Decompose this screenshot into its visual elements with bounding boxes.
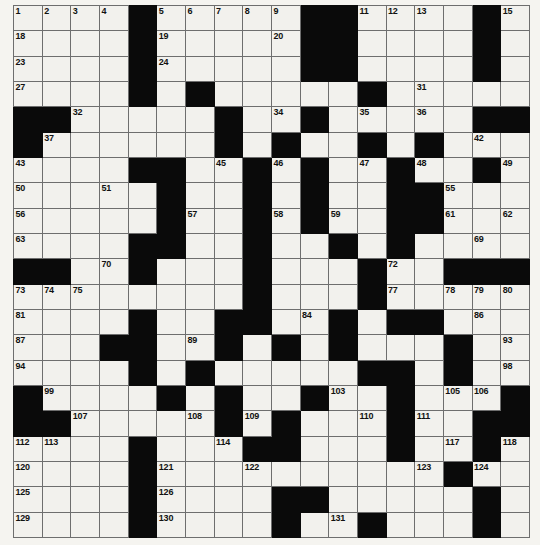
crossword-cell[interactable] [99,512,128,537]
crossword-cell[interactable]: 93 [501,335,530,360]
crossword-cell[interactable] [300,411,329,436]
crossword-cell[interactable] [99,360,128,385]
crossword-cell[interactable] [443,233,472,258]
crossword-cell[interactable] [329,411,358,436]
crossword-cell[interactable] [329,436,358,461]
crossword-cell[interactable]: 110 [357,411,386,436]
crossword-cell[interactable] [271,259,300,284]
crossword-cell[interactable] [71,132,100,157]
crossword-cell[interactable] [128,385,157,410]
crossword-cell[interactable] [415,233,444,258]
crossword-cell[interactable] [386,107,415,132]
crossword-cell[interactable]: 59 [329,208,358,233]
crossword-cell[interactable] [443,81,472,106]
crossword-cell[interactable]: 78 [443,284,472,309]
crossword-cell[interactable] [185,487,214,512]
crossword-cell[interactable]: 15 [501,6,530,31]
crossword-cell[interactable] [214,259,243,284]
crossword-cell[interactable] [443,31,472,56]
crossword-cell[interactable] [300,360,329,385]
crossword-cell[interactable]: 45 [214,157,243,182]
crossword-cell[interactable]: 37 [42,132,71,157]
crossword-cell[interactable]: 94 [14,360,43,385]
crossword-cell[interactable] [243,512,272,537]
crossword-cell[interactable]: 120 [14,461,43,486]
crossword-cell[interactable] [271,233,300,258]
crossword-cell[interactable]: 123 [415,461,444,486]
crossword-cell[interactable]: 129 [14,512,43,537]
crossword-cell[interactable] [472,81,501,106]
crossword-cell[interactable]: 105 [443,385,472,410]
crossword-cell[interactable] [214,487,243,512]
crossword-cell[interactable]: 77 [386,284,415,309]
crossword-cell[interactable]: 63 [14,233,43,258]
crossword-cell[interactable] [329,183,358,208]
crossword-cell[interactable] [386,335,415,360]
crossword-cell[interactable] [329,259,358,284]
crossword-cell[interactable] [157,81,186,106]
crossword-cell[interactable] [157,132,186,157]
crossword-cell[interactable] [415,31,444,56]
crossword-cell[interactable] [157,309,186,334]
crossword-cell[interactable] [71,233,100,258]
crossword-cell[interactable]: 73 [14,284,43,309]
crossword-cell[interactable] [99,31,128,56]
crossword-cell[interactable] [243,385,272,410]
crossword-cell[interactable] [415,259,444,284]
crossword-cell[interactable] [185,157,214,182]
crossword-cell[interactable]: 32 [71,107,100,132]
crossword-cell[interactable] [185,233,214,258]
crossword-cell[interactable] [271,56,300,81]
crossword-cell[interactable] [501,183,530,208]
crossword-cell[interactable]: 31 [415,81,444,106]
crossword-cell[interactable] [386,461,415,486]
crossword-cell[interactable] [214,233,243,258]
crossword-cell[interactable] [386,56,415,81]
crossword-cell[interactable] [501,56,530,81]
crossword-cell[interactable] [443,309,472,334]
crossword-cell[interactable] [443,107,472,132]
crossword-cell[interactable] [157,107,186,132]
crossword-cell[interactable]: 11 [357,6,386,31]
crossword-cell[interactable]: 114 [214,436,243,461]
crossword-cell[interactable] [357,31,386,56]
crossword-cell[interactable] [386,132,415,157]
crossword-cell[interactable] [99,233,128,258]
crossword-cell[interactable] [243,132,272,157]
crossword-cell[interactable] [271,284,300,309]
crossword-cell[interactable] [185,309,214,334]
crossword-cell[interactable] [185,183,214,208]
crossword-cell[interactable] [329,132,358,157]
crossword-cell[interactable]: 75 [71,284,100,309]
crossword-cell[interactable]: 117 [443,436,472,461]
crossword-cell[interactable] [443,157,472,182]
crossword-cell[interactable] [71,360,100,385]
crossword-cell[interactable]: 89 [185,335,214,360]
crossword-cell[interactable]: 112 [14,436,43,461]
crossword-cell[interactable] [42,335,71,360]
crossword-cell[interactable] [300,512,329,537]
crossword-cell[interactable]: 12 [386,6,415,31]
crossword-cell[interactable] [99,132,128,157]
crossword-cell[interactable]: 103 [329,385,358,410]
crossword-cell[interactable]: 49 [501,157,530,182]
crossword-cell[interactable] [157,360,186,385]
crossword-cell[interactable] [357,385,386,410]
crossword-cell[interactable]: 9 [271,6,300,31]
crossword-cell[interactable] [214,56,243,81]
crossword-cell[interactable] [415,436,444,461]
crossword-cell[interactable] [42,233,71,258]
crossword-cell[interactable]: 87 [14,335,43,360]
crossword-cell[interactable]: 35 [357,107,386,132]
crossword-cell[interactable] [99,461,128,486]
crossword-cell[interactable] [443,56,472,81]
crossword-cell[interactable] [128,183,157,208]
crossword-cell[interactable] [357,335,386,360]
crossword-cell[interactable]: 43 [14,157,43,182]
crossword-cell[interactable] [157,335,186,360]
crossword-cell[interactable]: 18 [14,31,43,56]
crossword-cell[interactable] [357,309,386,334]
crossword-cell[interactable] [214,512,243,537]
crossword-cell[interactable] [185,132,214,157]
crossword-cell[interactable] [243,360,272,385]
